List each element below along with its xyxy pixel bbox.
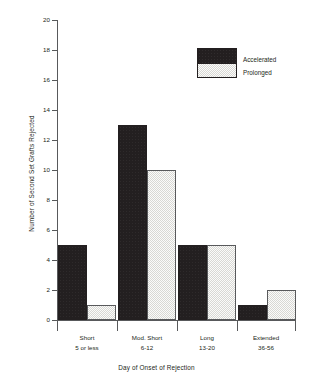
legend-swatch-box xyxy=(197,48,237,78)
y-tick-16: 16 xyxy=(52,80,57,81)
bar-prolonged-extended xyxy=(267,290,296,320)
category-label-long: Long 13-20 xyxy=(177,333,237,352)
bar-prolonged-long xyxy=(207,245,236,320)
category-label-long-line1: Long xyxy=(200,334,214,341)
category-separator-0 xyxy=(57,320,58,331)
bar-accelerated-long xyxy=(178,245,207,320)
category-label-short: Short 5 or less xyxy=(57,333,117,352)
bar-prolonged-mod-short xyxy=(147,170,176,320)
legend-swatch-accelerated xyxy=(198,49,236,63)
y-tick-18: 18 xyxy=(52,50,57,51)
category-label-mod-short: Mod. Short 6-12 xyxy=(117,333,177,352)
bar-prolonged-short xyxy=(87,305,116,320)
x-axis-title: Day of Onset of Rejection xyxy=(0,364,313,371)
bar-accelerated-extended xyxy=(238,305,267,320)
y-tick-20: 20 xyxy=(52,20,57,21)
legend-swatch-prolonged xyxy=(198,63,236,77)
category-separator-3 xyxy=(237,320,238,331)
y-tick-14: 14 xyxy=(52,110,57,111)
bar-accelerated-mod-short xyxy=(118,125,147,320)
y-tick-2: 2 xyxy=(52,290,57,291)
category-separator-1 xyxy=(117,320,118,331)
y-tick-12: 12 xyxy=(52,140,57,141)
legend-label-prolonged: Prolonged xyxy=(243,69,272,76)
category-label-extended: Extended 36-56 xyxy=(237,333,295,352)
category-label-short-line2: 5 or less xyxy=(57,343,117,353)
category-label-extended-line1: Extended xyxy=(253,334,279,341)
bar-accelerated-short xyxy=(58,245,87,320)
category-separator-2 xyxy=(177,320,178,331)
category-label-mod-short-line2: 6-12 xyxy=(117,343,177,353)
y-tick-6: 6 xyxy=(52,230,57,231)
category-label-short-line1: Short xyxy=(80,334,95,341)
plot-area: 0 2 4 6 8 10 12 14 16 18 20 xyxy=(57,20,295,320)
y-tick-8: 8 xyxy=(52,200,57,201)
y-tick-10: 10 xyxy=(52,170,57,171)
x-axis-line xyxy=(57,320,295,321)
category-label-extended-line2: 36-56 xyxy=(237,343,295,353)
y-tick-4: 4 xyxy=(52,260,57,261)
y-axis-title: Number of Second Set Grafts Rejected xyxy=(28,69,35,279)
category-label-mod-short-line1: Mod. Short xyxy=(132,334,162,341)
category-separator-4 xyxy=(295,320,296,331)
category-label-long-line2: 13-20 xyxy=(177,343,237,353)
bar-chart-figure: Number of Second Set Grafts Rejected 0 2… xyxy=(0,0,313,386)
legend-label-accelerated: Accelerated xyxy=(243,56,276,63)
